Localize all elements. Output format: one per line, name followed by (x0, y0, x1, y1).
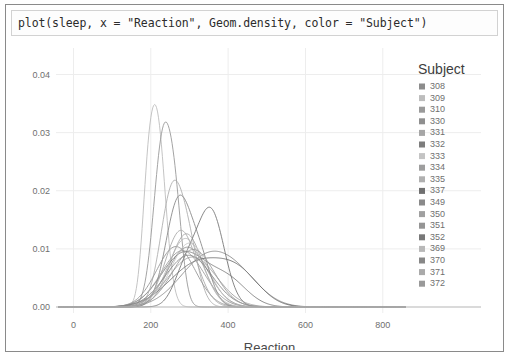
plot-output-panel: plot(sleep, x = "Reaction", Geom.density… (0, 0, 509, 360)
legend-swatch-331[interactable] (419, 130, 425, 136)
legend-swatch-349[interactable] (419, 200, 425, 206)
legend-swatch-333[interactable] (419, 153, 425, 159)
density-curve-370 (58, 255, 406, 307)
legend-label-351[interactable]: 351 (430, 220, 445, 230)
legend-swatch-332[interactable] (419, 142, 425, 148)
legend-label-308[interactable]: 308 (430, 81, 445, 91)
density-curve-337 (58, 258, 406, 307)
legend-label-334[interactable]: 334 (430, 162, 445, 172)
x-axis-title: Reaction (244, 340, 295, 350)
y-tick-label: 0.03 (32, 128, 50, 138)
legend-label-371[interactable]: 371 (430, 267, 445, 277)
x-tick-label: 600 (298, 320, 313, 330)
legend-swatch-335[interactable] (419, 176, 425, 182)
legend-label-369[interactable]: 369 (430, 243, 445, 253)
code-input-cell[interactable]: plot(sleep, x = "Reaction", Geom.density… (11, 10, 498, 36)
legend-title: Subject (418, 61, 465, 77)
legend-swatch-337[interactable] (419, 188, 425, 194)
legend-label-333[interactable]: 333 (430, 151, 445, 161)
legend-label-332[interactable]: 332 (430, 139, 445, 149)
density-curve-331 (58, 234, 406, 307)
gridlines (56, 48, 481, 313)
density-curve-350 (58, 257, 406, 307)
density-curve-349 (58, 195, 406, 307)
y-axis-ticks: 0.000.010.020.030.04 (32, 70, 50, 312)
legend-swatch-351[interactable] (419, 223, 425, 229)
code-source-text: plot(sleep, x = "Reaction", Geom.density… (18, 16, 427, 30)
x-tick-label: 0 (71, 320, 76, 330)
legend-label-335[interactable]: 335 (430, 174, 445, 184)
legend-swatch-369[interactable] (419, 246, 425, 252)
legend-swatch-350[interactable] (419, 211, 425, 217)
legend-swatch-372[interactable] (419, 281, 425, 287)
density-curve-371 (58, 230, 406, 307)
legend-label-352[interactable]: 352 (430, 232, 445, 242)
legend-swatch-352[interactable] (419, 234, 425, 240)
legend-label-310[interactable]: 310 (430, 104, 445, 114)
legend-swatch-370[interactable] (419, 258, 425, 264)
legend-swatch-330[interactable] (419, 118, 425, 124)
density-curves (58, 105, 406, 308)
legend-label-330[interactable]: 330 (430, 116, 445, 126)
y-tick-label: 0.00 (32, 302, 50, 312)
plot-svg-canvas: 0.000.010.020.030.040200400600800Reactio… (6, 42, 503, 350)
x-tick-label: 200 (143, 320, 158, 330)
y-tick-label: 0.02 (32, 186, 50, 196)
y-tick-label: 0.04 (32, 70, 50, 80)
legend-swatch-309[interactable] (419, 95, 425, 101)
legend-swatch-334[interactable] (419, 165, 425, 171)
legend-label-309[interactable]: 309 (430, 93, 445, 103)
legend-label-370[interactable]: 370 (430, 255, 445, 265)
legend-label-349[interactable]: 349 (430, 197, 445, 207)
legend-swatch-371[interactable] (419, 269, 425, 275)
legend-label-372[interactable]: 372 (430, 278, 445, 288)
x-tick-label: 800 (375, 320, 390, 330)
legend: Subject308309310330331332333334335337349… (418, 61, 465, 288)
legend-swatch-310[interactable] (419, 107, 425, 113)
x-axis-ticks: 0200400600800 (71, 320, 390, 330)
x-tick-label: 400 (221, 320, 236, 330)
density-curve-352 (58, 207, 406, 307)
density-plot: 0.000.010.020.030.040200400600800Reactio… (6, 42, 503, 350)
density-curve-335 (58, 180, 406, 307)
legend-label-331[interactable]: 331 (430, 127, 445, 137)
legend-swatch-308[interactable] (419, 84, 425, 90)
legend-label-337[interactable]: 337 (430, 185, 445, 195)
y-tick-label: 0.01 (32, 244, 50, 254)
legend-label-350[interactable]: 350 (430, 209, 445, 219)
